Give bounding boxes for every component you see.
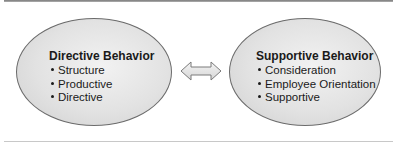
- double-arrow-icon: [180, 61, 222, 81]
- bullet-icon: [51, 82, 54, 85]
- supportive-behavior-ellipse: Supportive Behavior Consideration Employ…: [229, 18, 381, 126]
- directive-behavior-ellipse: Directive Behavior Structure Productive …: [16, 18, 172, 126]
- supportive-behavior-list: Consideration Employee Orientation Suppo…: [256, 64, 376, 105]
- list-item: Employee Orientation: [256, 78, 376, 92]
- directive-behavior-title: Directive Behavior: [49, 49, 154, 63]
- supportive-behavior-title: Supportive Behavior: [256, 49, 376, 63]
- bullet-icon: [258, 95, 261, 98]
- list-item: Structure: [49, 64, 154, 78]
- list-item: Productive: [49, 78, 154, 92]
- directive-behavior-content: Directive Behavior Structure Productive …: [49, 49, 154, 105]
- list-item: Supportive: [256, 91, 376, 105]
- directive-behavior-list: Structure Productive Directive: [49, 64, 154, 105]
- bullet-icon: [258, 82, 261, 85]
- top-rule: [4, 0, 393, 2]
- supportive-behavior-content: Supportive Behavior Consideration Employ…: [256, 49, 376, 105]
- list-item: Consideration: [256, 64, 376, 78]
- list-item: Directive: [49, 91, 154, 105]
- bottom-rule: [4, 141, 393, 142]
- bullet-icon: [51, 68, 54, 71]
- bullet-icon: [51, 95, 54, 98]
- bullet-icon: [258, 68, 261, 71]
